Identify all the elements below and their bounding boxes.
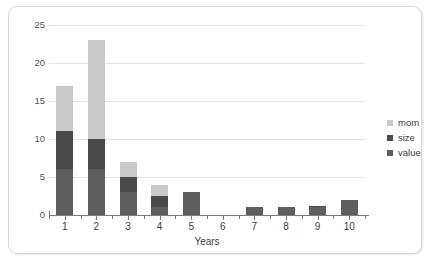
x-axis-tick	[65, 216, 66, 220]
bar-group[interactable]	[278, 25, 295, 215]
bar-group[interactable]	[120, 25, 137, 215]
bar-segment-value[interactable]	[56, 169, 73, 215]
x-axis-title: Years	[49, 236, 365, 247]
bar-segment-value[interactable]	[246, 207, 263, 215]
x-axis-tick	[223, 216, 224, 220]
bar-group[interactable]	[341, 25, 358, 215]
x-axis-minor-tick	[302, 216, 303, 219]
x-axis-minor-tick	[112, 216, 113, 219]
bar-group[interactable]	[151, 25, 168, 215]
legend-label: size	[398, 133, 415, 143]
legend-swatch-icon	[387, 135, 393, 141]
y-axis-tick-label: 5	[19, 172, 45, 182]
bar-segment-mom[interactable]	[88, 40, 105, 139]
bar-segment-size[interactable]	[56, 131, 73, 169]
x-axis-tick-label: 5	[178, 222, 204, 232]
x-axis-tick	[96, 216, 97, 220]
legend-label: mom	[398, 118, 419, 128]
bar-group[interactable]	[214, 25, 231, 215]
y-axis-tick-label: 20	[19, 58, 45, 68]
bar-segment-size[interactable]	[88, 139, 105, 169]
x-axis-tick-label: 6	[210, 222, 236, 232]
bar-segment-mom[interactable]	[56, 86, 73, 132]
legend-label: value	[398, 148, 421, 158]
bar-segment-value[interactable]	[278, 207, 295, 215]
bar-group[interactable]	[246, 25, 263, 215]
bar-segment-size[interactable]	[309, 206, 326, 208]
plot-area	[49, 25, 365, 215]
bar-segment-value[interactable]	[151, 207, 168, 215]
bar-segment-value[interactable]	[183, 192, 200, 215]
bar-group[interactable]	[56, 25, 73, 215]
x-axis-minor-tick	[365, 216, 366, 219]
bar-segment-size[interactable]	[151, 196, 168, 207]
x-axis-minor-tick	[270, 216, 271, 219]
x-axis-tick-label: 2	[83, 222, 109, 232]
bar-group[interactable]	[183, 25, 200, 215]
bar-segment-size[interactable]	[120, 177, 137, 192]
x-axis-minor-tick	[207, 216, 208, 219]
chart-frame: 0510152025 12345678910 Years momsizevalu…	[8, 6, 422, 254]
y-axis-tick-label: 0	[19, 210, 45, 220]
bar-group[interactable]	[309, 25, 326, 215]
x-axis-tick-label: 3	[115, 222, 141, 232]
legend-swatch-icon	[387, 150, 393, 156]
bar-segment-value[interactable]	[88, 169, 105, 215]
legend-item[interactable]: mom	[387, 115, 432, 130]
x-axis-minor-tick	[49, 216, 50, 219]
x-axis-tick	[160, 216, 161, 220]
bar-segment-value[interactable]	[341, 200, 358, 215]
x-axis-tick	[128, 216, 129, 220]
x-axis-minor-tick	[81, 216, 82, 219]
bar-segment-value[interactable]	[309, 207, 326, 215]
bar-segment-value[interactable]	[120, 192, 137, 215]
x-axis-minor-tick	[333, 216, 334, 219]
x-axis-minor-tick	[175, 216, 176, 219]
legend-item[interactable]: value	[387, 145, 432, 160]
y-axis-tick-label: 25	[19, 20, 45, 30]
x-axis-tick	[191, 216, 192, 220]
x-axis-tick-label: 1	[52, 222, 78, 232]
x-axis-tick-label: 7	[241, 222, 267, 232]
x-axis-tick	[349, 216, 350, 220]
legend-swatch-icon	[387, 120, 393, 126]
x-axis-tick	[286, 216, 287, 220]
x-axis-minor-tick	[144, 216, 145, 219]
x-axis-tick	[254, 216, 255, 220]
x-axis-tick-label: 9	[305, 222, 331, 232]
x-axis-minor-tick	[239, 216, 240, 219]
chart-legend: momsizevalue	[387, 115, 432, 160]
y-axis-tick-label: 10	[19, 134, 45, 144]
x-axis-tick-label: 10	[336, 222, 362, 232]
legend-item[interactable]: size	[387, 130, 432, 145]
y-axis-tick-label: 15	[19, 96, 45, 106]
bar-group[interactable]	[88, 25, 105, 215]
bar-segment-mom[interactable]	[151, 185, 168, 196]
x-axis-tick-label: 4	[147, 222, 173, 232]
x-axis-tick	[318, 216, 319, 220]
y-axis-tick-labels: 0510152025	[13, 25, 45, 215]
bar-segment-mom[interactable]	[120, 162, 137, 177]
x-axis-tick-label: 8	[273, 222, 299, 232]
